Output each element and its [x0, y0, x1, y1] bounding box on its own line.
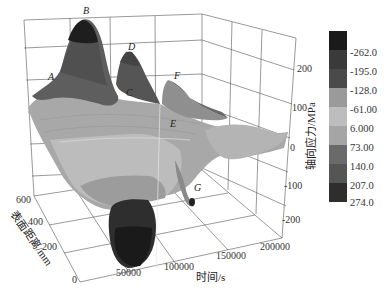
- colorbar-tick: 6.000: [350, 123, 374, 134]
- colorbar-band: [329, 126, 347, 145]
- y-tick: 600: [16, 194, 31, 205]
- colorbar-band: [329, 50, 347, 69]
- z-tick: -200: [282, 214, 300, 225]
- colorbar-tick: 73.00: [350, 142, 374, 153]
- label-D: D: [127, 41, 136, 52]
- colorbar-tick: 140.0: [350, 161, 374, 172]
- colorbar-tick: 207.0: [350, 180, 374, 191]
- z-axis: 200 100 0 -100 -200 轴向应力/MPa: [282, 63, 317, 225]
- x-tick: 100000: [164, 261, 194, 272]
- label-F: F: [173, 70, 181, 81]
- colorbar-band: [329, 164, 347, 183]
- stress-surface: [28, 19, 288, 268]
- colorbar-band: [329, 145, 347, 164]
- colorbar: -262.0 -195.0 -128.0 -61.00 6.000 73.00 …: [329, 31, 377, 208]
- surface-plot: B A D C F E G 200 100 0 -100 -200 轴向应力/M…: [0, 0, 386, 292]
- x-axis-label: 时间/s: [196, 271, 225, 283]
- colorbar-tick: -128.0: [350, 85, 377, 96]
- label-B: B: [83, 5, 89, 16]
- z-tick: -100: [284, 180, 302, 191]
- label-C: C: [126, 87, 133, 98]
- colorbar-tick: -195.0: [350, 66, 377, 77]
- label-E: E: [169, 118, 176, 129]
- x-tick: 150000: [216, 250, 246, 261]
- colorbar-band: [329, 88, 347, 107]
- colorbar-band: [329, 69, 347, 88]
- colorbar-band: [329, 31, 347, 50]
- colorbar-band: [329, 183, 347, 202]
- z-axis-label: 轴向应力/MPa: [304, 102, 317, 170]
- label-G: G: [194, 182, 201, 193]
- x-tick: 200000: [260, 241, 290, 252]
- colorbar-tick: -262.0: [350, 47, 377, 58]
- colorbar-tick: 274.0: [350, 197, 374, 208]
- label-A: A: [47, 71, 55, 82]
- x-tick: 50000: [116, 267, 141, 278]
- y-tick: 0: [72, 274, 77, 285]
- colorbar-tick: -61.00: [350, 104, 377, 115]
- z-tick: 200: [297, 63, 312, 74]
- colorbar-band: [329, 107, 347, 126]
- z-tick: 0: [290, 142, 295, 153]
- y-axis: 600 400 200 0 表面距离/mm: [8, 194, 77, 285]
